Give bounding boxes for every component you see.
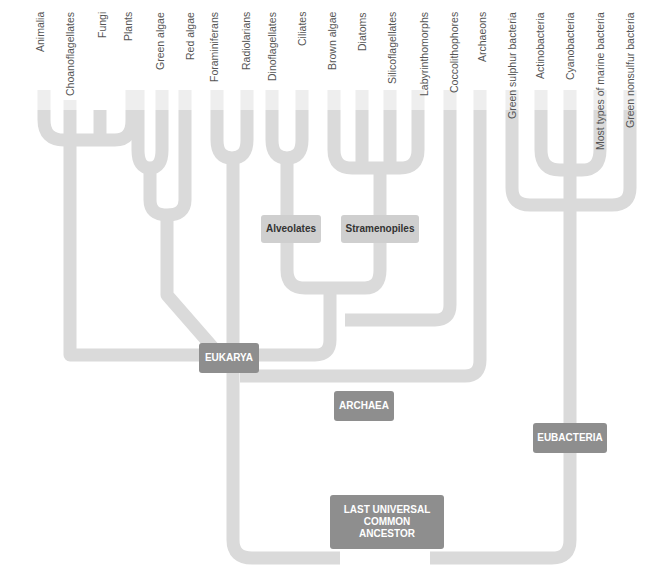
leaf-green-nonsulfur-bacteria: Green nonsulfur bacteria [624, 12, 636, 128]
leaf-ciliates: Ciliates [296, 12, 308, 46]
leaf-radiolarians: Radiolarians [240, 12, 252, 70]
luca-line-2: COMMON [364, 516, 411, 528]
leaf-marine-bacteria: Most types of marine bacteria [594, 12, 606, 150]
leaf-coccolithophores: Coccolithophores [448, 12, 460, 93]
tree-branches [0, 0, 665, 581]
leaf-plants: Plants [122, 12, 134, 41]
leaf-silicoflagellates: Silicoflagellates [386, 12, 398, 84]
leaf-diatoms: Diatoms [356, 12, 368, 51]
luca-line-1: LAST UNIVERSAL [344, 504, 431, 516]
node-alveolates: Alveolates [261, 215, 321, 243]
leaf-cyanobacteria: Cyanobacteria [564, 12, 576, 80]
node-eubacteria: EUBACTERIA [533, 423, 607, 453]
leaf-red-algae: Red algae [184, 12, 196, 60]
leaf-brown-algae: Brown algae [326, 12, 338, 70]
node-last-universal-common-ancestor: LAST UNIVERSAL COMMON ANCESTOR [330, 495, 444, 549]
leaf-choanoflagellates: Choanoflagellates [64, 12, 76, 96]
node-stramenopiles: Stramenopiles [341, 215, 419, 243]
leaf-animalia: Animalia [34, 12, 46, 52]
leaf-labyrinthomorphs: Labyrinthomorphs [418, 12, 430, 96]
leaf-green-algae: Green algae [154, 12, 166, 70]
leaf-foraminiferans: Foraminiferans [208, 12, 220, 82]
node-archaea: ARCHAEA [334, 391, 394, 421]
leaf-actinobacteria: Actinobacteria [534, 12, 546, 79]
leaf-archaeons: Archaeons [476, 12, 488, 62]
node-eukarya: EUKARYA [199, 343, 259, 373]
luca-line-3: ANCESTOR [359, 528, 415, 540]
leaf-dinoflagellates: Dinoflagellates [266, 12, 278, 81]
leaf-fungi: Fungi [96, 12, 108, 38]
leaf-green-sulphur-bacteria: Green sulphur bacteria [506, 12, 518, 119]
